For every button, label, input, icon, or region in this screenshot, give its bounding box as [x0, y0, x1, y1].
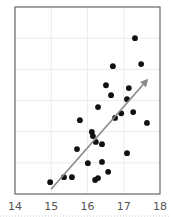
- data-point: [126, 85, 132, 91]
- x-tick-label: 16: [81, 200, 95, 213]
- data-point: [99, 159, 105, 165]
- x-tick-label: 14: [8, 200, 22, 213]
- data-point: [92, 177, 98, 183]
- data-point: [69, 174, 75, 180]
- data-point: [105, 169, 111, 175]
- data-point: [47, 179, 53, 185]
- data-point: [74, 146, 80, 152]
- data-point: [85, 160, 91, 166]
- data-point: [77, 117, 83, 123]
- data-point: [90, 133, 96, 139]
- data-point: [108, 92, 114, 98]
- data-point: [124, 150, 130, 156]
- x-axis-tick-labels: 1415161718: [8, 200, 167, 213]
- data-point: [144, 120, 150, 126]
- data-point: [99, 141, 105, 147]
- x-tick-label: 18: [153, 200, 167, 213]
- x-tick-label: 15: [44, 200, 58, 213]
- trend-arrow: [51, 80, 147, 189]
- x-tick-label: 17: [117, 200, 131, 213]
- data-point: [138, 61, 144, 67]
- data-point: [110, 63, 116, 69]
- data-point: [130, 109, 136, 115]
- data-point: [103, 82, 109, 88]
- data-point: [95, 104, 101, 110]
- data-point: [132, 35, 138, 41]
- scatter-chart: 1415161718: [0, 0, 171, 217]
